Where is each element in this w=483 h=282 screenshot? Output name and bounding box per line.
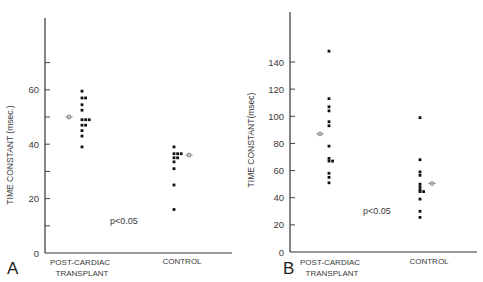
data-point [176,152,179,155]
data-point [173,152,176,155]
data-point [419,171,422,174]
panel-b: 020406080100120140TIME CONSTANT(msec)POS… [240,0,483,282]
data-point [328,157,331,160]
data-point [328,50,331,53]
data-point [328,109,331,112]
data-point [81,146,84,149]
p-value-annotation: p<0.05 [363,206,391,216]
data-point [81,124,84,127]
data-point [173,167,176,170]
data-point [88,118,91,121]
data-point [422,190,425,193]
data-point [419,190,422,193]
y-tick-label: 40 [28,139,39,150]
y-tick-label: 0 [279,247,284,258]
y-tick-label: 20 [28,193,39,204]
data-point [173,146,176,149]
data-point [328,124,331,127]
data-point [81,109,84,112]
data-point [328,176,331,179]
x-category-label: CONTROL [162,257,202,266]
data-point [419,210,422,213]
data-point [81,90,84,93]
data-point [328,181,331,184]
x-category-label: TRANSPLANT [306,269,359,278]
y-axis-label: TIME CONSTANT (msec.) [5,105,15,204]
data-point [84,124,87,127]
y-tick-label: 100 [268,111,284,122]
data-point [81,118,84,121]
data-point [81,97,84,100]
data-point [84,97,87,100]
y-tick-label: 40 [273,192,284,203]
data-point [419,185,422,188]
y-tick-label: 20 [273,219,284,230]
panel-letter-b: B [283,259,294,279]
y-tick-label: 120 [268,84,284,95]
data-point [180,152,183,155]
y-axis-label: TIME CONSTANT(msec) [246,92,256,187]
data-point [419,158,422,161]
panel-letter-a: A [7,259,18,279]
data-point [328,145,331,148]
panel-a: 0204060TIME CONSTANT (msec.)POST-CARDIAC… [0,0,240,282]
data-point [419,198,422,201]
data-point [328,160,331,163]
data-point [419,116,422,119]
data-point [419,216,422,219]
data-point [328,172,331,175]
data-point [176,156,179,159]
data-point [173,160,176,163]
data-point [328,97,331,100]
data-point [173,208,176,211]
y-tick-label: 140 [268,57,284,68]
data-point [81,135,84,138]
x-category-label: POST-CARDIAC [50,258,110,267]
data-point [331,160,334,163]
data-point [81,103,84,106]
data-point [173,184,176,187]
y-tick-label: 60 [273,165,284,176]
data-point [84,118,87,121]
y-tick-label: 60 [28,84,39,95]
chart-b-canvas: 020406080100120140TIME CONSTANT(msec)POS… [240,0,483,282]
data-point [81,129,84,132]
x-category-label: CONTROL [409,257,449,266]
y-tick-label: 0 [34,248,39,259]
data-point [173,156,176,159]
chart-a-canvas: 0204060TIME CONSTANT (msec.)POST-CARDIAC… [0,0,240,282]
data-point [419,174,422,177]
x-category-label: POST-CARDIAC [300,258,360,267]
y-tick-label: 80 [273,138,284,149]
p-value-annotation: p<0.05 [110,216,138,226]
data-point [328,105,331,108]
data-point [328,120,331,123]
x-category-label: TRANSPLANT [56,269,109,278]
data-point [419,183,422,186]
